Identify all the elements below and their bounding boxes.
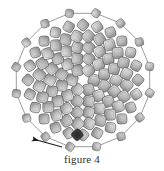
figure-container: figure 4 — [0, 0, 164, 171]
rosette-tiling-diagram — [0, 0, 164, 171]
tile — [29, 46, 42, 59]
tile — [12, 89, 21, 98]
tile — [65, 9, 74, 18]
tile — [36, 91, 49, 104]
tile — [50, 26, 62, 38]
tile — [23, 59, 37, 73]
tile — [117, 36, 128, 47]
tile — [71, 52, 84, 65]
tile — [129, 87, 143, 101]
tile — [90, 20, 104, 34]
tile — [65, 141, 76, 152]
tile — [94, 114, 107, 127]
tile — [59, 33, 72, 46]
tile — [49, 121, 62, 134]
tile — [61, 46, 72, 57]
tile — [105, 122, 117, 134]
tile-layer — [11, 8, 155, 152]
tile — [39, 114, 50, 125]
tile — [145, 62, 154, 71]
tile — [144, 87, 155, 98]
tile — [92, 142, 101, 151]
tile — [39, 36, 50, 47]
figure-caption: figure 4 — [0, 152, 164, 166]
tile — [116, 132, 126, 142]
outer-link-layer — [16, 13, 150, 147]
tile — [135, 37, 145, 47]
tile — [40, 19, 50, 29]
tile — [117, 114, 128, 125]
tile — [29, 102, 41, 114]
tile — [104, 26, 117, 39]
tile — [117, 56, 130, 69]
tile — [90, 8, 101, 19]
tile — [94, 103, 105, 114]
tile — [124, 101, 137, 114]
tile — [82, 95, 95, 108]
tile — [125, 47, 137, 59]
tile — [22, 113, 32, 123]
tile — [11, 62, 22, 73]
